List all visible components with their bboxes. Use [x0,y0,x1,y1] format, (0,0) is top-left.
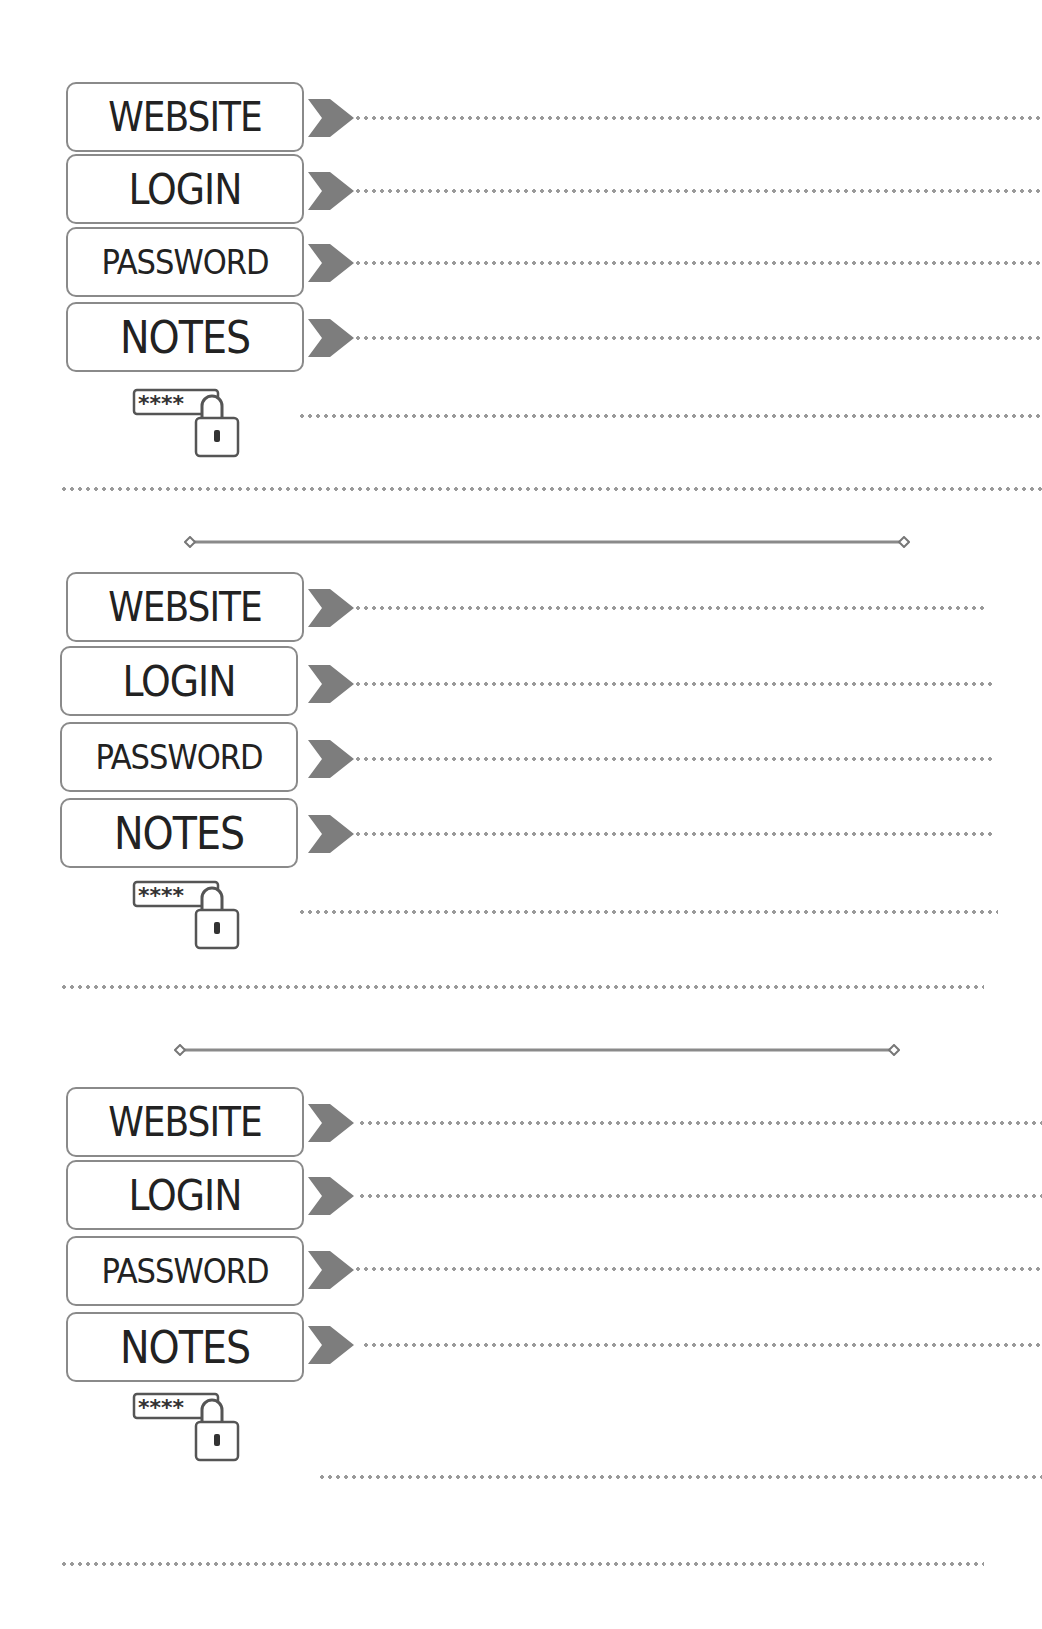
chevron-right-icon [308,1251,354,1289]
chevron-right-icon [308,1104,354,1142]
password-label: PASSWORD [101,242,268,282]
website-fill-line[interactable] [358,1121,1042,1125]
password-lock-icon: **** [132,1392,242,1464]
chevron-right-icon [308,172,354,210]
website-label: WEBSITE [108,584,261,630]
notes-label-box: NOTES [60,798,298,868]
password-fill-line[interactable] [354,261,1042,265]
notes-fill-line-3[interactable] [60,487,1042,491]
password-lock-icon: **** [132,880,242,952]
chevron-right-icon [308,1326,354,1364]
password-label-box: PASSWORD [66,227,304,297]
notes-fill-line-1[interactable] [362,1343,1042,1347]
chevron-right-icon [308,319,354,357]
website-label-box: WEBSITE [66,1087,304,1157]
notes-label-box: NOTES [66,302,304,372]
svg-text:****: **** [138,1395,185,1420]
notes-fill-line-3[interactable] [60,985,984,989]
login-label-box: LOGIN [60,646,298,716]
password-lock-icon: **** [132,388,242,460]
website-label: WEBSITE [108,1099,261,1145]
login-fill-line[interactable] [354,682,994,686]
password-label-box: PASSWORD [60,722,298,792]
login-fill-line[interactable] [358,1194,1042,1198]
chevron-right-icon [308,740,354,778]
svg-text:****: **** [138,391,185,416]
password-label: PASSWORD [95,737,262,777]
notes-fill-line-1[interactable] [354,832,994,836]
password-label: PASSWORD [101,1251,268,1291]
notes-fill-line-2[interactable] [298,910,998,914]
password-fill-line[interactable] [354,1267,1042,1271]
notes-fill-line-2[interactable] [298,414,1042,418]
chevron-right-icon [308,665,354,703]
notes-label: NOTES [120,1322,250,1373]
notes-fill-line-3[interactable] [60,1562,984,1566]
website-fill-line[interactable] [354,116,1042,120]
chevron-right-icon [308,815,354,853]
login-label: LOGIN [129,1171,242,1220]
website-label: WEBSITE [108,94,261,140]
notes-label: NOTES [120,312,250,363]
login-label-box: LOGIN [66,1160,304,1230]
notes-label: NOTES [114,808,244,859]
login-label: LOGIN [129,165,242,214]
website-label-box: WEBSITE [66,82,304,152]
chevron-right-icon [308,589,354,627]
login-label: LOGIN [123,657,236,706]
password-label-box: PASSWORD [66,1236,304,1306]
svg-text:****: **** [138,883,185,908]
login-label-box: LOGIN [66,154,304,224]
notes-label-box: NOTES [66,1312,304,1382]
section-divider [174,1044,900,1056]
notes-fill-line-1[interactable] [354,336,1042,340]
website-label-box: WEBSITE [66,572,304,642]
website-fill-line[interactable] [354,606,988,610]
chevron-right-icon [308,99,354,137]
notes-fill-line-2[interactable] [318,1475,1042,1479]
chevron-right-icon [308,1177,354,1215]
login-fill-line[interactable] [354,189,1042,193]
password-fill-line[interactable] [354,757,994,761]
section-divider [184,536,910,548]
chevron-right-icon [308,244,354,282]
